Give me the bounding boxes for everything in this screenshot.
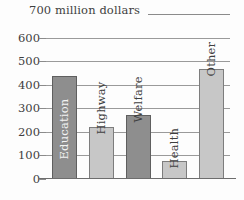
bar-label-other: Other: [206, 42, 218, 77]
y-axis-tick-label: 100: [18, 148, 40, 162]
y-axis-tick-mark: [39, 132, 46, 133]
y-axis-tick-mark: [39, 179, 46, 180]
y-axis-tick-mark: [39, 61, 46, 62]
bar-other: [199, 69, 224, 179]
bar-label-health: Health: [169, 128, 181, 169]
bar-label-education: Education: [58, 99, 70, 160]
y-axis-tick-mark: [39, 155, 46, 156]
bar-label-welfare: Welfare: [132, 77, 144, 123]
bar-highway: [89, 127, 114, 179]
bar-label-highway: Highway: [95, 82, 107, 135]
bar-welfare: [126, 115, 151, 179]
y-axis-tick-label: 300: [18, 101, 40, 115]
bars-layer: EducationHighwayWelfareHealthOther: [46, 14, 230, 179]
y-axis-tick-label: 200: [18, 125, 40, 139]
bar-chart: 700 million dollars 0100200300400500600 …: [0, 0, 244, 200]
y-axis-tick-mark: [39, 108, 46, 109]
x-axis-line: [38, 178, 236, 179]
y-axis-tick-mark: [39, 85, 46, 86]
plot-area: 0100200300400500600 EducationHighwayWelf…: [46, 14, 230, 179]
y-axis-tick-label: 500: [18, 54, 40, 68]
y-axis-tick-mark: [39, 38, 46, 39]
y-axis-tick-label: 400: [18, 78, 40, 92]
y-axis-tick-label: 600: [18, 31, 40, 45]
